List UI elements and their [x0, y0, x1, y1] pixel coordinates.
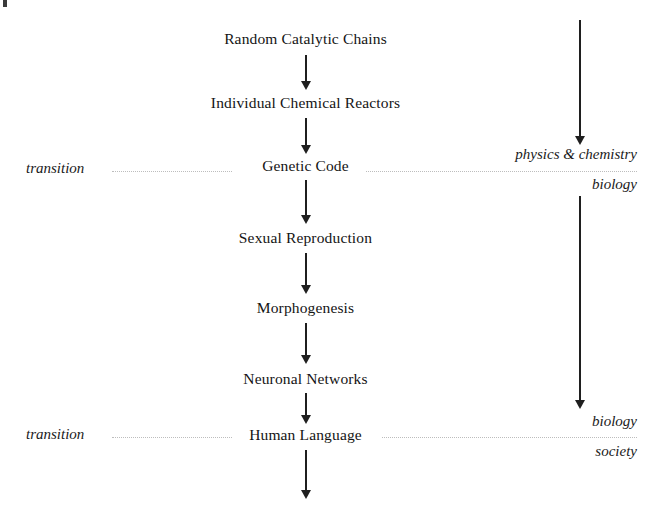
upper-transition-left-label: transition — [26, 160, 84, 177]
physics-to-biology-arrow — [570, 20, 590, 146]
lower-transition-left-label: transition — [26, 426, 84, 443]
arrow-morphogenesis-to-neuronal-networks — [296, 323, 316, 365]
lower-domain-below-label: society — [437, 443, 637, 460]
biology-to-society-arrow — [570, 196, 590, 410]
chain-node-morphogenesis: Morphogenesis — [0, 299, 611, 317]
chain-node-sexual-reproduction: Sexual Reproduction — [0, 229, 611, 247]
upper-domain-below-label: biology — [437, 176, 637, 193]
upper-transition-rule-left — [112, 171, 232, 172]
lower-transition-rule-right — [382, 437, 637, 438]
chain-node-random-catalytic-chains: Random Catalytic Chains — [0, 30, 611, 48]
upper-transition-rule-right — [366, 171, 637, 172]
arrow-genetic-code-to-sexual-reproduction — [296, 180, 316, 225]
lower-transition-rule-left — [112, 437, 232, 438]
diagram-canvas: Random Catalytic Chains Individual Chemi… — [0, 0, 651, 513]
arrow-human-language-outgoing — [296, 450, 316, 500]
scan-artifact — [3, 0, 7, 7]
arrow-catalytic-to-reactors — [296, 55, 316, 90]
arrow-sexual-reproduction-to-morphogenesis — [296, 253, 316, 295]
arrow-reactors-to-genetic-code — [296, 118, 316, 154]
chain-node-individual-chemical-reactors: Individual Chemical Reactors — [0, 94, 611, 112]
lower-domain-above-label: biology — [437, 413, 637, 430]
upper-domain-above-label: physics & chemistry — [437, 146, 637, 163]
arrow-neuronal-networks-to-human-language — [296, 393, 316, 424]
chain-node-neuronal-networks: Neuronal Networks — [0, 370, 611, 388]
